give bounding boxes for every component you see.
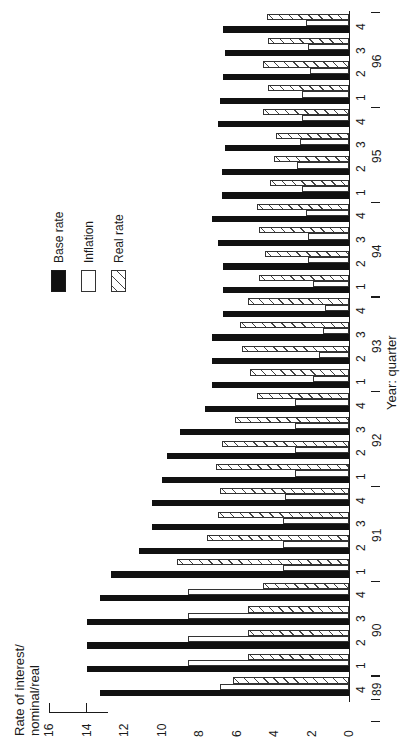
year-label: 90 [370, 624, 384, 637]
bar-infl [308, 233, 349, 239]
quarter-label: 4 [354, 402, 368, 409]
bar-real [242, 346, 349, 352]
year-label: 93 [370, 339, 384, 352]
bar-real [177, 559, 350, 565]
bar-base [220, 98, 349, 104]
bar-infl [295, 423, 349, 429]
quarter-label: 3 [354, 331, 368, 338]
bar-real [216, 464, 349, 470]
bar-base [225, 145, 349, 151]
bar-base [223, 74, 349, 80]
bar-base [87, 619, 350, 625]
bar-infl [295, 447, 349, 453]
legend-label: Real rate [112, 214, 126, 263]
quarter-label: 1 [354, 568, 368, 575]
bar-infl [308, 44, 349, 50]
bar-infl [302, 115, 349, 121]
bar-real [276, 133, 349, 139]
value-tick-label: 12 [117, 724, 131, 737]
value-tick-label: 2 [305, 730, 319, 737]
bar-base [212, 216, 349, 222]
bar-base [205, 406, 349, 412]
bar-base [167, 453, 349, 459]
year-label: 94 [370, 245, 384, 258]
bar-real [248, 654, 349, 660]
quarter-label: 4 [354, 307, 368, 314]
year-label: 92 [370, 434, 384, 447]
year-separator [371, 486, 380, 487]
bar-infl [306, 210, 349, 216]
bar-base [223, 26, 349, 32]
bar-infl [188, 613, 349, 619]
bar-real [248, 298, 349, 304]
quarter-label: 2 [354, 450, 368, 457]
year-separator [371, 296, 380, 297]
bar-infl [295, 470, 349, 476]
year-label: 95 [370, 150, 384, 163]
bar-real [222, 441, 350, 447]
bar-real [263, 61, 349, 67]
quarter-label: 1 [354, 663, 368, 670]
quarter-label: 1 [354, 473, 368, 480]
bar-base [152, 524, 349, 530]
category-axis-title: Year: quarter [384, 335, 399, 410]
legend-swatch-base [51, 270, 66, 292]
quarter-label: 4 [354, 686, 368, 693]
bar-base [212, 334, 349, 340]
bar-base [212, 382, 349, 388]
bar-infl [325, 305, 349, 311]
bar-real [248, 630, 349, 636]
bar-base [225, 50, 349, 56]
year-label: 96 [370, 55, 384, 68]
bar-real [257, 204, 349, 210]
year-separator [371, 107, 380, 108]
bar-base [223, 311, 349, 317]
bar-real [268, 85, 349, 91]
quarter-label: 4 [354, 23, 368, 30]
quarter-label: 2 [354, 260, 368, 267]
bar-real [257, 393, 349, 399]
year-label: 91 [370, 529, 384, 542]
bar-base [223, 263, 349, 269]
quarter-label: 2 [354, 639, 368, 646]
quarter-label: 2 [354, 165, 368, 172]
bar-real [235, 417, 349, 423]
legend-swatch-real [111, 270, 126, 292]
quarter-label: 3 [354, 236, 368, 243]
bar-base [87, 642, 350, 648]
bar-base [162, 477, 350, 483]
bar-infl [302, 186, 349, 192]
bar-base [87, 666, 350, 672]
bar-base [100, 595, 349, 601]
bar-infl [313, 281, 349, 287]
value-tick-label: 16 [42, 724, 56, 737]
value-tick-label: 8 [192, 730, 206, 737]
legend-label: Base rate [52, 212, 66, 263]
bar-real [274, 156, 349, 162]
bar-infl [188, 660, 349, 666]
bar-real [220, 488, 349, 494]
bar-base [223, 287, 349, 293]
bar-infl [300, 139, 349, 145]
quarter-label: 3 [354, 521, 368, 528]
value-tick-label: 4 [267, 730, 281, 737]
year-separator [371, 699, 380, 700]
year-separator [371, 391, 380, 392]
value-tick-label: 14 [80, 724, 94, 737]
quarter-label: 4 [354, 118, 368, 125]
value-axis-tick-14 [86, 703, 87, 713]
bar-real [250, 369, 349, 375]
bar-infl [220, 684, 349, 690]
year-separator [371, 12, 380, 13]
bar-real [263, 109, 349, 115]
value-tick-label: 6 [230, 730, 244, 737]
bar-infl [306, 20, 349, 26]
value-axis-title: Rate of interest/ nominal/real [12, 606, 42, 736]
bar-real [267, 14, 350, 20]
value-tick-label: 10 [155, 724, 169, 737]
quarter-label: 1 [354, 189, 368, 196]
value-axis-tick-16 [49, 703, 50, 713]
bar-infl [313, 376, 349, 382]
category-axis-line [349, 11, 350, 702]
bar-infl [310, 68, 349, 74]
